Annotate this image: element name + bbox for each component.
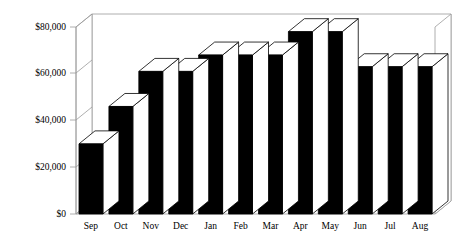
y-axis-labels: $80,000 $60,000 $40,000 $20,000 $0 <box>0 0 70 241</box>
y-tick-label-40000: $40,000 <box>35 115 66 125</box>
y-tick-label-60000: $60,000 <box>35 68 66 78</box>
bar-chart: $80,000 $60,000 $40,000 $20,000 $0 AugJu… <box>0 0 459 241</box>
y-tick-label-80000: $80,000 <box>35 22 66 32</box>
bar-sep <box>79 131 119 214</box>
y-tick-label-20000: $20,000 <box>35 162 66 172</box>
y-tick-label-0: $0 <box>57 209 67 219</box>
x-tick-label-sep: Sep <box>71 221 111 232</box>
